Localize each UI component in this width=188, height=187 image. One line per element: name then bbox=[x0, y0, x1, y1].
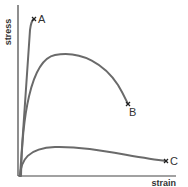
x-axis-label: strain bbox=[151, 178, 176, 187]
curve-b bbox=[21, 54, 128, 176]
curve-a-label: A bbox=[38, 13, 46, 25]
curve-b-label: B bbox=[129, 106, 136, 118]
y-axis-label: stress bbox=[3, 19, 13, 46]
stress-strain-chart: stress strain A B C bbox=[0, 0, 188, 187]
curve-c bbox=[20, 147, 166, 176]
curve-c-label: C bbox=[170, 155, 178, 167]
